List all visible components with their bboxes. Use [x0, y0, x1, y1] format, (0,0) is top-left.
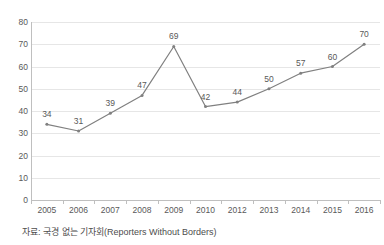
data-point-2016	[363, 43, 366, 46]
point-label-2010: 42	[201, 93, 210, 102]
series-markers	[45, 43, 365, 133]
data-point-2005	[45, 123, 48, 126]
data-point-2006	[77, 130, 80, 133]
data-point-2014	[299, 72, 302, 75]
point-label-2008: 47	[137, 81, 146, 90]
source-note: 자료: 국경 없는 기자회(Reporters Without Borders)	[22, 226, 217, 238]
data-point-2010	[204, 105, 207, 108]
data-point-2008	[141, 94, 144, 97]
point-label-2016: 70	[359, 30, 368, 39]
point-label-2007: 39	[106, 99, 115, 108]
data-point-2007	[109, 112, 112, 115]
point-label-2014: 57	[296, 59, 305, 68]
data-point-2013	[267, 87, 270, 90]
point-label-2012: 44	[232, 88, 241, 97]
point-label-2013: 50	[264, 75, 273, 84]
data-point-2009	[172, 45, 175, 48]
point-label-2015: 60	[328, 53, 337, 62]
point-label-2009: 69	[169, 32, 178, 41]
series-polyline	[47, 44, 364, 131]
data-point-2015	[331, 65, 334, 68]
data-point-2012	[236, 101, 239, 104]
point-label-2006: 31	[74, 117, 83, 126]
point-label-2005: 34	[42, 110, 51, 119]
chart-figure: 01020304050607080 2005200620072008200920…	[0, 0, 384, 245]
line-series	[0, 0, 384, 245]
